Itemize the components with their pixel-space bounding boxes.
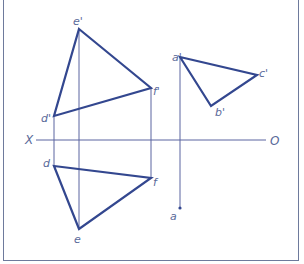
- label-f-prime: f': [153, 85, 160, 98]
- label-e: e: [74, 233, 81, 246]
- label-axis-x: X: [24, 133, 34, 147]
- label-e-prime: e': [73, 15, 83, 28]
- label-a: a: [170, 210, 177, 223]
- label-d-prime: d': [41, 112, 51, 125]
- label-a-prime: a': [172, 51, 182, 64]
- point-a: [178, 206, 181, 209]
- triangle-abc-front: [180, 57, 257, 106]
- label-axis-o: O: [270, 134, 279, 148]
- label-f: f: [153, 176, 159, 189]
- label-b-prime: b': [215, 106, 225, 119]
- triangle-def-top: [54, 166, 151, 229]
- projection-diagram: e' f' d' a' c' b' X O d f e a: [0, 0, 304, 264]
- triangle-def-front: [54, 29, 151, 116]
- label-d: d: [43, 157, 51, 170]
- label-c-prime: c': [259, 67, 268, 80]
